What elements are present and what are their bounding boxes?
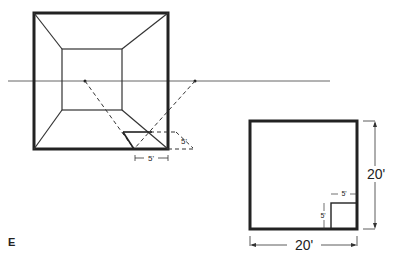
- plan-width-label: 20': [295, 237, 313, 253]
- corner-line-br: [122, 110, 168, 149]
- arrow-left-icon: [250, 243, 256, 247]
- small-square-width-label: 5': [341, 190, 346, 197]
- arrow-up-icon: [373, 121, 377, 127]
- arrow-right-icon: [351, 243, 357, 247]
- plan-room-square: [250, 121, 357, 229]
- plan-small-square: [331, 203, 357, 229]
- corner-line-tl: [34, 13, 62, 49]
- corner-line-bl: [34, 110, 62, 149]
- perspective-diagram: 5' 5' 20' 20' 5' 5' E: [0, 0, 397, 258]
- room-back-wall: [62, 49, 122, 110]
- floor-square-left-edge: [123, 132, 134, 149]
- corner-line-tr: [122, 13, 168, 49]
- figure-label: E: [8, 236, 15, 248]
- arrow-down-icon: [373, 223, 377, 229]
- plan-height-label: 20': [367, 166, 385, 182]
- depth-dimension-label: 5': [181, 137, 187, 146]
- small-square-height-label: 5': [320, 212, 325, 219]
- near-dimension-label: 5': [148, 154, 154, 163]
